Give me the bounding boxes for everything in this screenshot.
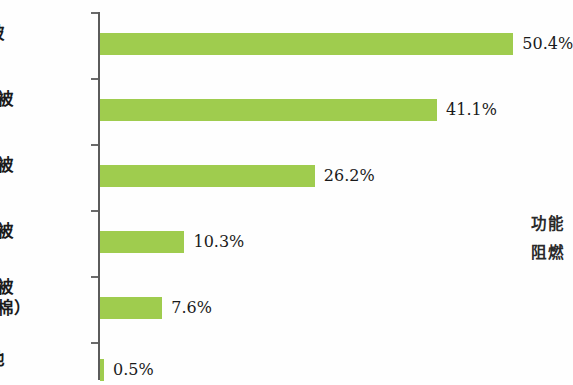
category-label: 棉被 xyxy=(0,24,88,44)
category-label: 化纤被 （中空棉） xyxy=(0,277,88,319)
category-label-line: 棉被 xyxy=(0,24,88,44)
chart-row: 蚕丝被 41.1% xyxy=(0,78,573,144)
category-label: 羊毛被 xyxy=(0,222,88,242)
chart-row: 其他 0.5% xyxy=(0,342,573,385)
category-label-line: 化纤被 xyxy=(0,277,88,298)
bar-value-label: 7.6% xyxy=(171,297,212,319)
bar-value-label: 50.4% xyxy=(522,33,573,55)
bar xyxy=(100,297,162,319)
bar xyxy=(100,359,104,381)
bar xyxy=(100,231,184,253)
chart-row: 化纤被 （中空棉） 7.6% xyxy=(0,276,573,342)
bar xyxy=(100,165,315,187)
side-annotation: 功能 阻燃 xyxy=(531,209,564,267)
bar-value-label: 10.3% xyxy=(193,231,244,253)
bar-value-label: 41.1% xyxy=(446,99,497,121)
bar-value-label: 26.2% xyxy=(324,165,375,187)
bar xyxy=(100,33,513,55)
category-label: 其他 xyxy=(0,350,88,370)
category-label-line: 其他 xyxy=(0,350,88,370)
chart-row: 羊毛被 10.3% xyxy=(0,210,573,276)
side-annotation-line: 阻燃 xyxy=(531,238,564,267)
category-label: 蚕丝被 xyxy=(0,90,88,110)
chart-row: 棉被 50.4% xyxy=(0,12,573,78)
category-label-line: 蚕丝被 xyxy=(0,90,88,110)
category-label-line: （中空棉） xyxy=(0,298,88,319)
bar xyxy=(100,99,437,121)
category-label-line: 羽绒被 xyxy=(0,156,88,176)
category-label-line: 羊毛被 xyxy=(0,222,88,242)
chart-row: 羽绒被 26.2% xyxy=(0,144,573,210)
side-annotation-line: 功能 xyxy=(531,209,564,238)
bar-value-label: 0.5% xyxy=(113,359,154,381)
category-label: 羽绒被 xyxy=(0,156,88,176)
